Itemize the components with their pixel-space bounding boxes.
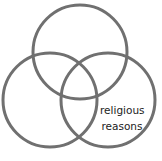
venn-diagram <box>0 0 162 161</box>
religious-reasons-label: religious reasons <box>100 102 144 134</box>
label-line-1: religious <box>100 102 144 118</box>
label-line-2: reasons <box>100 118 144 134</box>
